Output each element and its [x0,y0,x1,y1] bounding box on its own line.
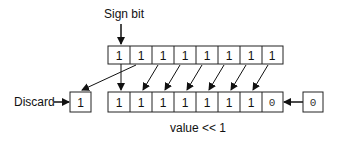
top-bit: 1 [160,49,167,63]
top-bit: 1 [116,49,123,63]
discard-arrow [82,65,136,90]
top-bit: 1 [269,49,276,63]
bottom-bit: 1 [226,96,233,110]
bottom-bit: 1 [116,96,123,110]
shift-in-bit: 0 [310,97,317,109]
bottom-bit: 1 [204,96,211,110]
top-bit: 1 [226,49,233,63]
top-bit: 1 [248,49,255,63]
shift-left-diagram: Sign bit 1 1 1 1 1 1 1 1 Discard 1 [0,0,339,144]
discard-box: 1 [70,92,91,112]
top-bit: 1 [204,49,211,63]
top-bit: 1 [182,49,189,63]
bottom-bit: 1 [182,96,189,110]
shift-in-box: 0 [303,92,323,112]
bottom-bit: 1 [138,96,145,110]
bottom-bit-zero: 0 [269,97,276,109]
caption: value << 1 [170,121,226,135]
discard-bit: 1 [77,96,84,110]
discard-label: Discard [14,95,55,109]
bottom-bit: 1 [160,96,167,110]
sign-bit-label: Sign bit [104,7,145,21]
top-row: 1 1 1 1 1 1 1 1 [108,46,283,64]
bottom-row: 1 1 1 1 1 1 1 0 [108,92,283,112]
shift-arrows [82,64,268,90]
top-bit: 1 [138,49,145,63]
bottom-bit: 1 [248,96,255,110]
